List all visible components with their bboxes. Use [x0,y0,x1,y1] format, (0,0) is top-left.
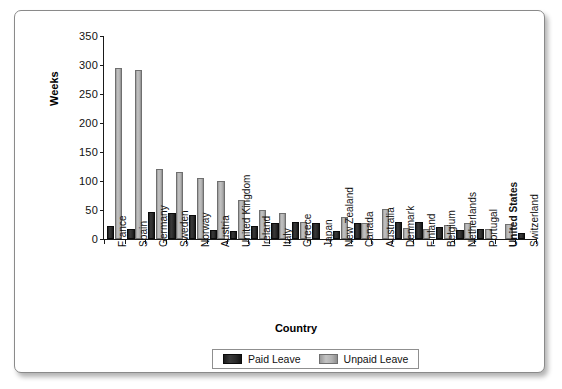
bar-paid-leave [148,212,155,239]
x-axis-category-label: United Kingdom [241,174,252,247]
bar-paid-leave [292,222,299,239]
x-axis-category-label: Portugal [488,209,499,247]
bar-group [207,36,228,239]
bar-paid-leave [271,223,278,239]
bar-group [125,36,146,239]
legend-label: Unpaid Leave [344,353,409,365]
x-axis-category-label: Switzerland [529,194,540,247]
x-axis-category-label: Canada [364,211,375,247]
bar-group [310,36,331,239]
bar-group [104,36,125,239]
bar-group [186,36,207,239]
x-axis-category-label: Ireland [261,216,272,247]
x-axis-category-label: Greece [302,214,313,247]
bar-unpaid-leave [115,68,122,239]
x-axis-category-label: Norway [200,213,211,248]
x-axis-category-label: Finland [426,214,437,248]
x-axis-category-label: Belgium [446,210,457,247]
unpaid-leave-swatch [319,354,338,364]
chart-legend: Paid LeaveUnpaid Leave [212,349,419,369]
bar-group [433,36,454,239]
x-axis-category-label: Sweden [179,210,190,247]
paid-leave-swatch [223,354,242,364]
bar-paid-leave [518,233,525,239]
x-axis-tick-mark [104,239,105,244]
bar-paid-leave [127,229,134,239]
bar-paid-leave [189,215,196,239]
x-axis-title: Country [15,322,562,334]
bar-group [289,36,310,239]
x-axis-category-label: France [117,215,128,247]
bar-paid-leave [230,231,237,239]
x-axis-category-label: Japan [323,219,334,247]
x-axis-category-label: Austria [220,215,231,247]
bar-paid-leave [333,231,340,239]
bar-paid-leave [168,213,175,239]
bar-paid-leave [415,222,422,239]
x-axis-category-label: Netherlands [467,192,478,247]
bar-paid-leave [107,226,114,239]
bar-paid-leave [312,223,319,239]
x-axis-category-label: Denmark [405,206,416,247]
x-axis-category-label: New Zealand [344,187,355,247]
x-axis-category-label: United States [508,182,519,247]
bar-unpaid-leave [135,70,142,239]
bar-paid-leave [477,229,484,239]
x-axis-category-label: Germany [158,205,169,247]
x-axis-category-label: Italy [282,228,293,247]
legend-entry: Unpaid Leave [319,353,409,365]
bar-paid-leave [436,227,443,239]
legend-label: Paid Leave [248,353,301,365]
bar-paid-leave [456,230,463,239]
x-axis-category-label: Australia [385,207,396,247]
y-axis-title: Weeks [48,71,60,106]
x-axis-category-label: Spain [138,221,149,247]
legend-entry: Paid Leave [223,353,301,365]
bar-group [269,36,290,239]
figure-frame: Weeks 050100150200250300350 FranceSpainG… [14,10,545,373]
